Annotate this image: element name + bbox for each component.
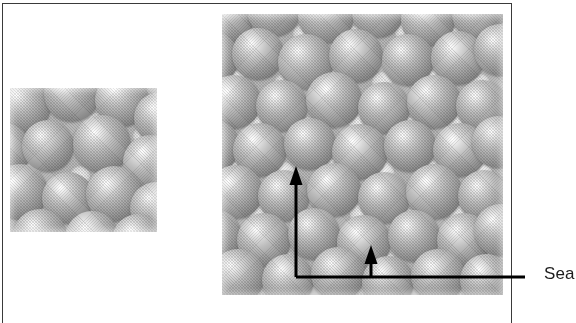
sphere — [362, 256, 414, 295]
sphere — [222, 75, 261, 129]
left-micrograph-spheres — [10, 88, 157, 232]
sphere — [284, 118, 336, 170]
sphere — [262, 254, 314, 295]
right-micrograph-spheres — [222, 14, 503, 295]
sphere — [22, 120, 74, 172]
annotation-label: Sea — [544, 264, 575, 284]
right-micrograph-panel — [222, 14, 503, 295]
sphere — [411, 249, 465, 295]
left-micrograph-panel — [10, 88, 157, 232]
sphere — [311, 247, 365, 295]
sphere — [232, 28, 284, 80]
